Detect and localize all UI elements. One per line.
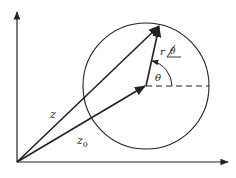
diagram-canvas: z z0 r θ θ <box>0 0 236 178</box>
label-theta-angle: θ <box>155 72 161 83</box>
vector-z0 <box>17 86 145 162</box>
vector-z <box>17 26 159 162</box>
label-z: z <box>49 108 56 121</box>
label-theta-polar: θ <box>170 46 176 56</box>
label-r: r <box>160 46 166 57</box>
diagram-svg: z z0 r θ θ <box>0 0 236 178</box>
label-z0: z0 <box>76 134 88 149</box>
